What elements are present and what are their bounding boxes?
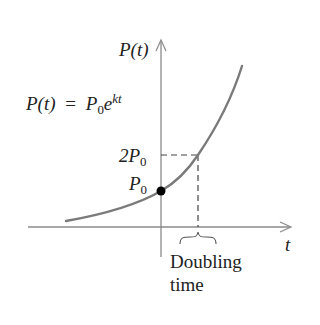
x-axis-label-text: t xyxy=(285,234,290,255)
y-axis-label-text: P(t) xyxy=(119,39,149,60)
graph-svg xyxy=(0,0,320,325)
p0-sub: 0 xyxy=(141,182,147,197)
doubling-guides xyxy=(161,155,198,227)
x-axis-label: t xyxy=(285,235,290,254)
doubling-time-label: Doubling time xyxy=(170,250,242,296)
equation-rhs-e: e xyxy=(104,93,112,114)
exponential-curve xyxy=(66,66,242,221)
two-p0-coef: 2P xyxy=(119,145,140,166)
equation-rhs-base: P xyxy=(86,93,98,114)
p0-base: P xyxy=(129,173,141,194)
doubling-time-brace-icon xyxy=(180,232,216,244)
doubling-time-line1: Doubling xyxy=(170,250,242,273)
p0-label: P0 xyxy=(129,174,147,197)
two-p0-label: 2P0 xyxy=(119,146,147,169)
diagram-canvas: P(t) P(t) = P0ekt 2P0 P0 t Doubling time xyxy=(0,0,320,325)
equation-rhs-exp: kt xyxy=(112,91,121,106)
y-axis-label: P(t) xyxy=(119,40,149,59)
two-p0-sub: 0 xyxy=(140,154,146,169)
equation-lhs: P(t) xyxy=(26,93,56,114)
x-axis xyxy=(28,222,291,232)
p0-point xyxy=(157,187,166,196)
y-axis xyxy=(156,40,166,257)
equation-label: P(t) = P0ekt xyxy=(26,93,122,117)
doubling-time-line2: time xyxy=(170,273,242,296)
equation-equals: = xyxy=(65,93,76,114)
